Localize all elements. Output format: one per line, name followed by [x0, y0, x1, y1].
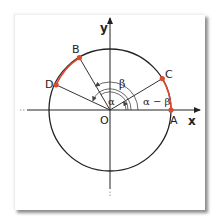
label-point-b: B: [72, 43, 80, 56]
arc-d-b: [56, 58, 79, 85]
angle-alpha-minus-beta-arc: [124, 102, 126, 110]
radius-od: [56, 85, 110, 110]
point-a: [168, 107, 173, 112]
label-angle-beta: β: [119, 78, 125, 91]
angle-alpha-arrow: [93, 92, 99, 101]
point-d: [54, 82, 59, 87]
label-origin: O: [100, 114, 109, 127]
label-x-axis: x: [188, 114, 196, 128]
label-angle-alpha-minus-beta: α − β: [143, 96, 170, 107]
label-point-a: A: [170, 114, 178, 127]
label-angle-alpha: α: [108, 96, 115, 107]
label-y-axis: y: [100, 21, 108, 35]
unit-circle-diagram: A B C D O x y β α α − β: [0, 0, 218, 223]
label-point-d: D: [45, 78, 53, 91]
radius-ob: [79, 58, 110, 110]
label-point-c: C: [165, 68, 173, 81]
